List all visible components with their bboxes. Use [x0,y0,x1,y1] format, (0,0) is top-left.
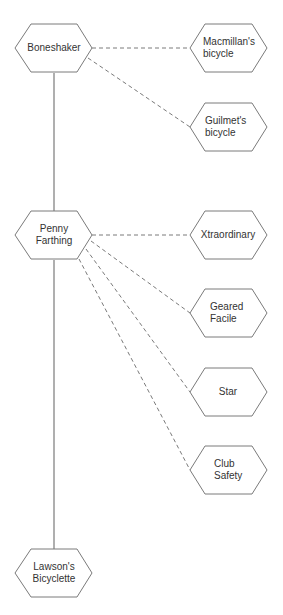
edge-penny-farthing-club-safety [79,259,190,470]
node-boneshaker: Boneshaker [18,24,90,72]
node-penny-farthing: Penny Farthing [18,211,90,259]
node-label-line-1: Penny [40,223,68,235]
node-label-line-2: Safety [214,470,242,482]
node-label-line-2: Farthing [36,235,73,247]
edge-penny-farthing-geared-facile [91,241,190,313]
node-xtraordinary: Xtraordinary [192,211,264,259]
node-label: Xtraordinary [201,229,255,241]
node-label-line-2: bicycle [203,48,234,60]
node-label-line-1: Geared [210,301,243,313]
node-label-line-2: Facile [210,313,237,325]
node-label-line-1: Macmillan's [203,36,255,48]
node-club-safety: Club Safety [196,446,270,494]
edge-boneshaker-guilmets [88,58,190,127]
node-lawsons-bicyclette: Lawson's Bicyclette [18,549,90,597]
node-label-line-1: Guilmet's [205,115,246,127]
node-label-line-1: Lawson's [33,561,74,573]
node-macmillans-bicycle: Macmillan's bicycle [185,24,259,72]
node-geared-facile: Geared Facile [192,289,266,337]
node-star: Star [192,368,264,416]
node-label: Boneshaker [27,42,80,54]
node-label-line-2: bicycle [205,127,236,139]
node-label-line-1: Club [214,458,235,470]
node-label: Star [219,386,237,398]
node-guilmets-bicycle: Guilmet's bicycle [187,103,261,151]
node-label-line-2: Bicyclette [33,573,76,585]
